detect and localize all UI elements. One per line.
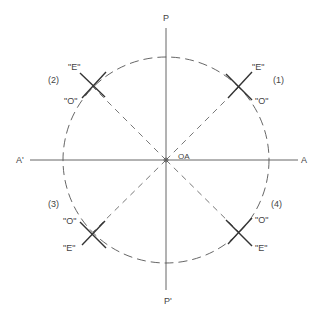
quadrant-2-o-label: "O" bbox=[64, 97, 77, 106]
quadrant-1-label: (1) bbox=[273, 76, 284, 85]
quadrant-2-e-label: "E" bbox=[68, 63, 80, 72]
diagonal-2-4 bbox=[93, 87, 166, 160]
axis-label-p: P bbox=[163, 14, 169, 23]
cross-marker-1 bbox=[226, 72, 252, 100]
quadrant-4-label: (4) bbox=[271, 200, 282, 209]
axis-label-p-prime: P' bbox=[164, 297, 172, 306]
axis-label-a-prime: A' bbox=[16, 156, 24, 165]
origin-label: OA bbox=[178, 153, 190, 161]
quadrant-4-e-label: "E" bbox=[255, 244, 267, 253]
quadrant-3-label: (3) bbox=[48, 200, 59, 209]
quadrant-3-e-label: "E" bbox=[63, 244, 75, 253]
cross-marker-2 bbox=[80, 72, 106, 98]
quadrant-4-o-label: "O" bbox=[255, 216, 268, 225]
quadrant-2-label: (2) bbox=[48, 76, 59, 85]
quadrant-1-o-label: "O" bbox=[255, 97, 268, 106]
cross-marker-4 bbox=[226, 218, 252, 246]
quadrant-3-o-label: "O" bbox=[63, 217, 76, 226]
axis-label-a: A bbox=[301, 156, 307, 165]
diagram: P P' A' A OA (1) "E" "O" (2) "E" "O" (3)… bbox=[0, 0, 320, 319]
quadrant-1-e-label: "E" bbox=[252, 63, 264, 72]
diagram-canvas bbox=[0, 0, 320, 319]
cross-marker-3 bbox=[80, 221, 106, 248]
